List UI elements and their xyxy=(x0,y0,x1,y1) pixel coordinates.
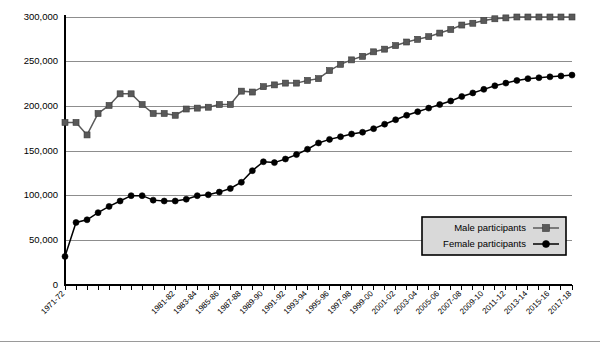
circle-marker xyxy=(543,241,550,248)
square-marker xyxy=(316,76,322,82)
circle-marker xyxy=(183,196,189,202)
square-marker xyxy=(327,68,333,74)
square-marker xyxy=(216,102,222,108)
square-marker xyxy=(503,15,509,21)
circle-marker xyxy=(316,140,322,146)
y-axis-tick-label: 300,000 xyxy=(24,11,58,22)
circle-marker xyxy=(481,86,487,92)
square-marker xyxy=(238,88,244,94)
circle-marker xyxy=(569,72,575,78)
circle-marker xyxy=(349,131,355,137)
square-marker xyxy=(470,20,476,26)
circle-marker xyxy=(360,129,366,135)
circle-marker xyxy=(304,146,310,152)
circle-marker xyxy=(128,193,134,199)
circle-marker xyxy=(525,76,531,82)
square-marker xyxy=(293,80,299,86)
circle-marker xyxy=(62,253,68,259)
circle-marker xyxy=(404,112,410,118)
square-marker xyxy=(525,14,531,20)
square-marker xyxy=(205,104,211,110)
circle-marker xyxy=(503,80,509,86)
square-marker xyxy=(536,14,542,20)
square-marker xyxy=(117,91,123,97)
circle-marker xyxy=(216,189,222,195)
chart-legend: Male participantsFemale participants xyxy=(422,217,566,255)
circle-marker xyxy=(382,121,388,127)
series-male-participants xyxy=(62,14,575,138)
y-axis-tick-label: 200,000 xyxy=(24,100,58,111)
square-marker xyxy=(415,36,421,42)
circle-marker xyxy=(260,159,266,165)
circle-marker xyxy=(205,192,211,198)
circle-marker xyxy=(227,186,233,192)
circle-marker xyxy=(514,77,520,83)
circle-marker xyxy=(293,152,299,158)
square-marker xyxy=(84,132,90,138)
circle-marker xyxy=(470,90,476,96)
circle-marker xyxy=(338,134,344,140)
square-marker xyxy=(172,112,178,118)
legend-label: Female participants xyxy=(443,238,526,249)
square-marker xyxy=(106,102,112,108)
circle-marker xyxy=(194,193,200,199)
square-marker xyxy=(382,46,388,52)
circle-marker xyxy=(437,102,443,108)
circle-marker xyxy=(459,94,465,100)
square-marker xyxy=(139,102,145,108)
circle-marker xyxy=(393,117,399,123)
square-marker xyxy=(194,105,200,111)
circle-marker xyxy=(415,109,421,115)
square-marker xyxy=(73,119,79,125)
circle-marker xyxy=(558,73,564,79)
gridlines-group xyxy=(65,17,572,240)
circle-marker xyxy=(282,156,288,162)
x-axis-labels-group: 1971-721981-821983-841985-861987-881989-… xyxy=(39,289,574,317)
square-marker xyxy=(95,110,101,116)
y-axis-labels-group: 050,000100,000150,000200,000250,000300,0… xyxy=(24,11,58,290)
y-axis-tick-label: 100,000 xyxy=(24,189,58,200)
circle-marker xyxy=(139,193,145,199)
square-marker xyxy=(271,82,277,88)
y-axis-tick-label: 250,000 xyxy=(24,55,58,66)
square-marker xyxy=(569,14,575,20)
circle-marker xyxy=(84,217,90,223)
square-marker xyxy=(260,84,266,90)
square-marker xyxy=(371,49,377,55)
square-marker xyxy=(360,53,366,59)
x-axis-tick-label: 2017-18 xyxy=(546,289,574,317)
line-chart-participants: 050,000100,000150,000200,000250,000300,0… xyxy=(0,0,600,349)
square-marker xyxy=(448,27,454,33)
y-axis-tick-label: 0 xyxy=(53,279,58,290)
square-marker xyxy=(338,61,344,67)
square-marker xyxy=(426,34,432,40)
square-marker xyxy=(514,14,520,20)
circle-marker xyxy=(117,198,123,204)
circle-marker xyxy=(249,168,255,174)
circle-marker xyxy=(271,160,277,166)
circle-marker xyxy=(150,197,156,203)
circle-marker xyxy=(73,219,79,225)
circle-marker xyxy=(161,198,167,204)
square-marker xyxy=(459,22,465,28)
square-marker xyxy=(558,14,564,20)
circle-marker xyxy=(95,210,101,216)
square-marker xyxy=(249,89,255,95)
square-marker xyxy=(282,80,288,86)
square-marker xyxy=(543,225,550,232)
circle-marker xyxy=(547,74,553,80)
square-marker xyxy=(547,14,553,20)
square-marker xyxy=(349,57,355,63)
square-marker xyxy=(492,16,498,22)
x-axis-tick-label: 2009-10 xyxy=(458,289,486,317)
legend-label: Male participants xyxy=(454,222,526,233)
square-marker xyxy=(227,102,233,108)
y-axis-tick-label: 50,000 xyxy=(29,234,58,245)
square-marker xyxy=(437,30,443,36)
x-axis-ticks-group xyxy=(65,285,572,290)
circle-marker xyxy=(371,126,377,132)
circle-marker xyxy=(172,198,178,204)
square-marker xyxy=(128,91,134,97)
square-marker xyxy=(183,106,189,112)
square-marker xyxy=(404,39,410,45)
